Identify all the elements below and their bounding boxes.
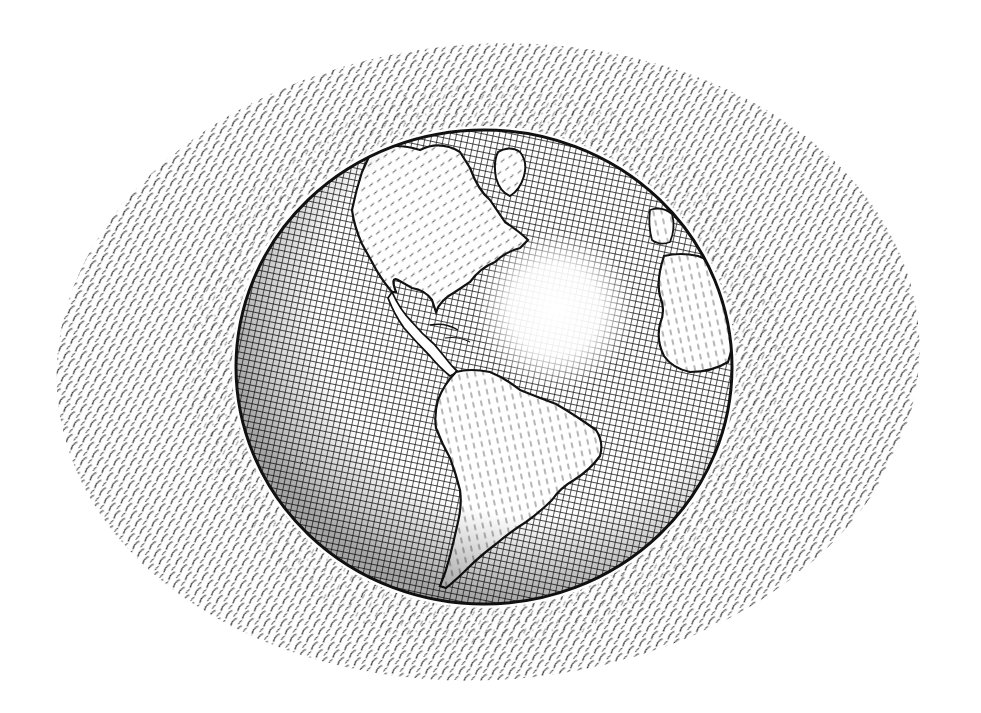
globe-illustration bbox=[0, 0, 981, 713]
illustration-canvas bbox=[0, 0, 981, 713]
limb-shading bbox=[236, 130, 732, 604]
